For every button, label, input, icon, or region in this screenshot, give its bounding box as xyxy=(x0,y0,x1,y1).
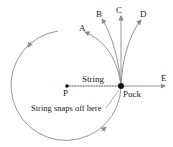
direction-arrow-left-icon xyxy=(28,42,31,47)
label-p: P xyxy=(63,89,68,98)
diagram: A B C D E P String Puck String snaps off… xyxy=(0,0,173,147)
label-c: C xyxy=(116,6,122,15)
label-string: String xyxy=(82,75,104,84)
label-e: E xyxy=(161,74,167,83)
path-b xyxy=(102,19,121,86)
label-puck: Puck xyxy=(123,90,141,99)
label-snap: String snaps off here xyxy=(31,104,101,113)
label-b: B xyxy=(96,10,102,19)
label-a: A xyxy=(79,24,86,33)
path-d xyxy=(121,20,141,86)
label-d: D xyxy=(140,10,147,19)
